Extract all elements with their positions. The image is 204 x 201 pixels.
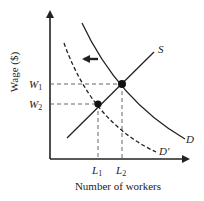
w2-label: W2 xyxy=(29,98,42,112)
l1-label: L1 xyxy=(91,164,102,178)
supply-curve xyxy=(67,52,154,138)
equilibrium-point-new xyxy=(94,100,101,107)
demand-curve xyxy=(82,23,185,139)
supply-label: S xyxy=(158,43,164,55)
demand-shifted-curve xyxy=(64,43,156,152)
equilibrium-point-original xyxy=(118,80,126,88)
w1-label: W1 xyxy=(29,78,42,92)
demand-label: D xyxy=(185,133,194,145)
demand-shifted-label: D′ xyxy=(158,145,170,157)
x-axis-title: Number of workers xyxy=(75,180,161,192)
labor-market-diagram: S D D′ W1 W2 L1 L2 Wage ($) Number of wo… xyxy=(0,0,204,201)
l2-label: L2 xyxy=(115,164,126,178)
y-axis-title: Wage ($) xyxy=(8,51,21,92)
